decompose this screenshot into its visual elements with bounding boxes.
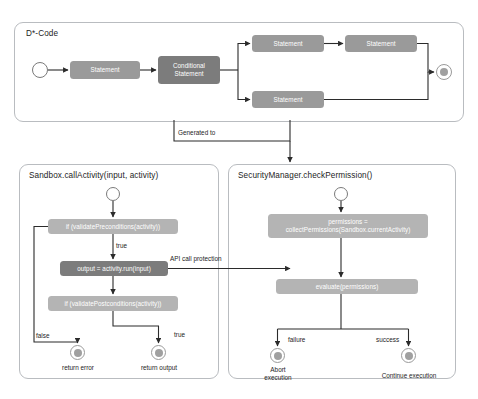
edge-label-failure: failure xyxy=(288,336,305,343)
start-node-security xyxy=(334,187,348,201)
edge-label-true: true xyxy=(174,331,185,338)
final-node-abort-dot xyxy=(274,352,282,360)
edge-label-api-call-protection: API call protection xyxy=(170,255,222,262)
panel-sandbox-title: Sandbox.callActivity(input, activity) xyxy=(29,171,158,180)
diagram-canvas: D*-Code Statement Conditional Statement … xyxy=(0,0,478,399)
edge-label-false: false xyxy=(36,332,50,339)
node-collect-permissions[interactable]: permissions = collectPermissions(Sandbox… xyxy=(268,214,428,238)
final-node-return-error-dot xyxy=(74,349,82,357)
node-validate-postconditions[interactable]: if (validatePostconditions(activity)) xyxy=(48,296,178,311)
end-label-return-output: return output xyxy=(129,364,189,372)
node-evaluate-permissions[interactable]: evaluate(permissions) xyxy=(276,279,418,294)
node-statement-branch-a2[interactable]: Statement xyxy=(345,35,417,52)
panel-dcode-title: D*-Code xyxy=(26,29,58,38)
final-node-return-output-dot xyxy=(155,349,163,357)
start-node-sandbox xyxy=(106,187,120,201)
node-statement-branch-b[interactable]: Statement xyxy=(252,91,324,108)
start-node-dcode xyxy=(32,62,48,78)
edge-label-success: success xyxy=(376,336,399,343)
end-label-return-error: return error xyxy=(50,364,106,372)
panel-security-manager-title: SecurityManager.checkPermission() xyxy=(238,171,372,180)
final-node-dcode-dot xyxy=(440,68,448,76)
edge-label-precondition-true: true xyxy=(116,242,127,249)
edge-label-generated-to: Generated to xyxy=(178,129,215,136)
node-validate-preconditions[interactable]: if (validatePreconditions(activity)) xyxy=(48,219,178,234)
node-activity-run[interactable]: output = activity.run(input) xyxy=(60,261,168,276)
final-node-continue-dot xyxy=(405,352,413,360)
end-label-abort-execution: Abort execution xyxy=(252,366,304,383)
node-conditional-statement[interactable]: Conditional Statement xyxy=(158,56,220,84)
end-label-continue-execution: Continue execution xyxy=(375,372,443,380)
node-statement-branch-a1[interactable]: Statement xyxy=(252,35,324,52)
node-statement-1[interactable]: Statement xyxy=(70,61,140,79)
